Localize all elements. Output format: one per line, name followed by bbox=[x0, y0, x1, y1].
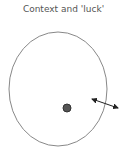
agent-dot bbox=[63, 104, 71, 112]
context-boundary bbox=[9, 32, 107, 146]
diagram-canvas bbox=[0, 0, 127, 154]
